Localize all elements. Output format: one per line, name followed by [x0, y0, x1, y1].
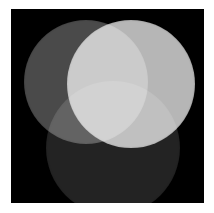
venn-stage	[11, 9, 204, 203]
plot-panel	[11, 9, 204, 203]
venn-disc-bottom	[46, 81, 180, 203]
figure-root	[0, 0, 214, 213]
